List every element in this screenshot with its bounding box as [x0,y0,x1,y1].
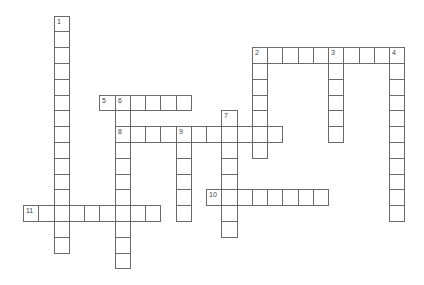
crossword-cell[interactable] [84,205,100,222]
crossword-cell[interactable] [145,205,161,222]
crossword-cell[interactable] [176,189,192,206]
crossword-cell[interactable] [221,189,238,206]
crossword-cell[interactable] [282,47,299,64]
clue-number: 2 [255,49,259,56]
crossword-cell[interactable] [221,126,238,143]
crossword-cell[interactable] [389,158,405,175]
crossword-cell[interactable] [176,174,192,190]
crossword-cell[interactable]: 8 [115,126,131,143]
crossword-cell[interactable] [115,253,131,269]
crossword-cell[interactable]: 2 [252,47,268,64]
crossword-cell[interactable]: 11 [23,205,39,222]
crossword-cell[interactable]: 3 [328,47,344,64]
crossword-cell[interactable]: 9 [176,126,192,143]
crossword-cell[interactable] [54,205,70,222]
crossword-cell[interactable] [282,189,299,206]
crossword-cell[interactable]: 6 [115,95,131,111]
crossword-cell[interactable] [115,158,131,175]
crossword-cell[interactable] [252,126,268,143]
crossword-cell[interactable] [389,189,405,206]
crossword-cell[interactable]: 7 [221,110,238,127]
crossword-cell[interactable] [54,63,70,80]
crossword-cell[interactable]: 5 [99,95,116,111]
crossword-cell[interactable] [267,189,283,206]
crossword-cell[interactable] [54,95,70,111]
crossword-cell[interactable] [54,31,70,48]
crossword-cell[interactable] [54,221,70,238]
crossword-cell[interactable] [343,47,360,64]
crossword-cell[interactable] [389,110,405,127]
crossword-cell[interactable] [99,205,116,222]
crossword-cell[interactable]: 1 [54,16,70,32]
crossword-cell[interactable] [267,126,283,143]
crossword-cell[interactable] [389,126,405,143]
crossword-cell[interactable] [145,126,161,143]
crossword-cell[interactable] [54,79,70,96]
crossword-cell[interactable] [221,142,238,159]
crossword-cell[interactable] [54,237,70,254]
crossword-cell[interactable] [130,126,146,143]
crossword-cell[interactable] [389,205,405,222]
crossword-cell[interactable] [313,189,329,206]
crossword-cell[interactable] [221,205,238,222]
crossword-cell[interactable] [267,47,283,64]
crossword-cell[interactable] [160,95,177,111]
crossword-cell[interactable] [389,174,405,190]
crossword-cell[interactable] [252,110,268,127]
crossword-cell[interactable]: 4 [389,47,405,64]
crossword-cell[interactable] [328,95,344,111]
crossword-cell[interactable] [160,126,177,143]
crossword-cell[interactable] [38,205,55,222]
crossword-cell[interactable] [374,47,390,64]
crossword-cell[interactable] [298,189,314,206]
crossword-cell[interactable] [115,205,131,222]
crossword-cell[interactable] [252,189,268,206]
crossword-cell[interactable] [389,95,405,111]
crossword-cell[interactable] [69,205,85,222]
crossword-cell[interactable] [54,174,70,190]
crossword-cell[interactable] [54,126,70,143]
crossword-cell[interactable] [206,126,222,143]
crossword-cell[interactable] [221,174,238,190]
crossword-cell[interactable] [115,110,131,127]
crossword-cell[interactable] [54,142,70,159]
clue-number: 7 [224,112,228,119]
crossword-cell[interactable] [252,63,268,80]
crossword-cell[interactable] [252,142,268,159]
crossword-cell[interactable] [237,189,253,206]
crossword-cell[interactable] [176,142,192,159]
crossword-cell[interactable]: 10 [206,189,222,206]
crossword-cell[interactable] [252,95,268,111]
crossword-cell[interactable] [115,221,131,238]
crossword-cell[interactable] [389,79,405,96]
crossword-cell[interactable] [237,126,253,143]
crossword-cell[interactable] [115,142,131,159]
crossword-cell[interactable] [389,63,405,80]
crossword-cell[interactable] [176,205,192,222]
crossword-cell[interactable] [252,79,268,96]
clue-number: 10 [209,191,217,198]
crossword-cell[interactable] [115,237,131,254]
crossword-cell[interactable] [221,221,238,238]
crossword-cell[interactable] [298,47,314,64]
crossword-cell[interactable] [221,158,238,175]
crossword-cell[interactable] [54,47,70,64]
crossword-cell[interactable] [115,174,131,190]
crossword-cell[interactable] [115,189,131,206]
crossword-cell[interactable] [176,95,192,111]
crossword-cell[interactable] [328,63,344,80]
crossword-cell[interactable] [130,95,146,111]
crossword-cell[interactable] [176,158,192,175]
crossword-cell[interactable] [145,95,161,111]
crossword-cell[interactable] [54,110,70,127]
crossword-cell[interactable] [130,205,146,222]
crossword-cell[interactable] [328,126,344,143]
crossword-cell[interactable] [191,126,207,143]
crossword-cell[interactable] [54,158,70,175]
crossword-cell[interactable] [313,47,329,64]
crossword-cell[interactable] [389,142,405,159]
crossword-cell[interactable] [328,79,344,96]
crossword-cell[interactable] [359,47,375,64]
crossword-cell[interactable] [328,110,344,127]
crossword-cell[interactable] [54,189,70,206]
